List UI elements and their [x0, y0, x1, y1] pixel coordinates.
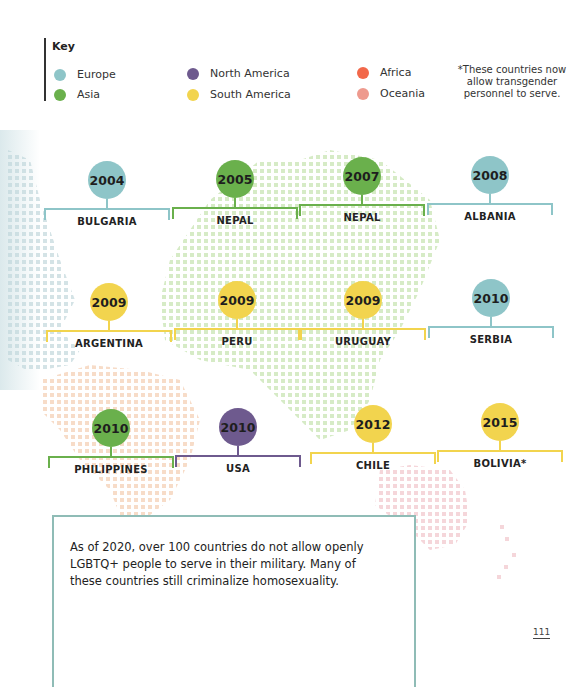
- year-badge: 2010: [92, 409, 130, 447]
- legend-item-north-america: North America: [187, 67, 290, 80]
- country-label: ARGENTINA: [46, 338, 172, 349]
- year-badge: 2008: [471, 156, 509, 194]
- country-label: NEPAL: [299, 212, 425, 223]
- country-label: ALBANIA: [427, 211, 553, 222]
- country-label: USA: [175, 463, 301, 474]
- timeline-entry-nepal: 2007 NEPAL: [299, 157, 425, 227]
- legend-label: Europe: [77, 68, 116, 81]
- connector: [236, 319, 238, 329]
- oceania-dot-icon: [357, 88, 369, 100]
- connector: [372, 443, 374, 453]
- fact-text: As of 2020, over 100 countries do not al…: [70, 539, 390, 590]
- connector: [361, 195, 363, 205]
- timeline-entry-serbia: 2010 SERBIA: [428, 279, 554, 349]
- north-america-dot-icon: [187, 68, 199, 80]
- connector: [108, 321, 110, 331]
- year-badge: 2005: [216, 160, 254, 198]
- country-label: SERBIA: [428, 334, 554, 345]
- country-label: BULGARIA: [44, 216, 170, 227]
- map-edge-fade: [0, 130, 40, 390]
- asia-dot-icon: [54, 89, 66, 101]
- country-label: URUGUAY: [300, 336, 426, 347]
- year-badge: 2004: [88, 161, 126, 199]
- year-badge: 2012: [354, 405, 392, 443]
- key-divider: [44, 38, 46, 101]
- connector: [362, 319, 364, 329]
- africa-dot-icon: [357, 67, 369, 79]
- timeline-entry-chile: 2012 CHILE: [310, 405, 436, 475]
- connector: [106, 199, 108, 209]
- country-label: CHILE: [310, 460, 436, 471]
- year-badge: 2010: [219, 408, 257, 446]
- timeline-entry-usa: 2010 USA: [175, 408, 301, 478]
- connector: [499, 441, 501, 451]
- year-badge: 2009: [90, 283, 128, 321]
- legend-item-oceania: Oceania: [357, 87, 425, 100]
- legend-label: Asia: [77, 88, 100, 101]
- page-number: 111: [533, 627, 550, 639]
- fact-box: As of 2020, over 100 countries do not al…: [52, 515, 416, 687]
- year-badge: 2009: [344, 281, 382, 319]
- legend-label: Oceania: [380, 87, 425, 100]
- country-label: PERU: [174, 336, 300, 347]
- timeline-entry-argentina: 2009 ARGENTINA: [46, 283, 172, 353]
- year-badge: 2010: [472, 279, 510, 317]
- country-label: PHILIPPINES: [48, 464, 174, 475]
- connector: [490, 317, 492, 327]
- timeline-entry-philippines: 2010 PHILIPPINES: [48, 409, 174, 479]
- timeline-entry-thailand: 2005 NEPAL: [172, 160, 298, 230]
- timeline-entry-bolivia: 2015 BOLIVIA*: [437, 403, 563, 473]
- connector: [237, 446, 239, 456]
- timeline-entry-bulgaria: 2004 BULGARIA: [44, 161, 170, 231]
- timeline-entry-uruguay: 2009 URUGUAY: [300, 281, 426, 351]
- legend-label: North America: [210, 67, 290, 80]
- south-america-dot-icon: [187, 89, 199, 101]
- legend-label: Africa: [380, 66, 411, 79]
- timeline-entry-peru: 2009 PERU: [174, 281, 300, 351]
- year-badge: 2015: [481, 403, 519, 441]
- legend-item-africa: Africa: [357, 66, 411, 79]
- legend-label: South America: [210, 88, 291, 101]
- europe-dot-icon: [54, 69, 66, 81]
- legend-item-south-america: South America: [187, 88, 291, 101]
- year-badge: 2009: [218, 281, 256, 319]
- year-badge: 2007: [343, 157, 381, 195]
- connector: [234, 198, 236, 208]
- legend-item-asia: Asia: [54, 88, 100, 101]
- connector: [489, 194, 491, 204]
- legend-item-europe: Europe: [54, 68, 116, 81]
- key-title: Key: [52, 40, 75, 53]
- transgender-footnote: *These countries now allow transgender p…: [448, 64, 576, 100]
- connector: [110, 447, 112, 457]
- country-label: BOLIVIA*: [437, 458, 563, 469]
- country-label: NEPAL: [172, 215, 298, 226]
- timeline-entry-albania: 2008 ALBANIA: [427, 156, 553, 226]
